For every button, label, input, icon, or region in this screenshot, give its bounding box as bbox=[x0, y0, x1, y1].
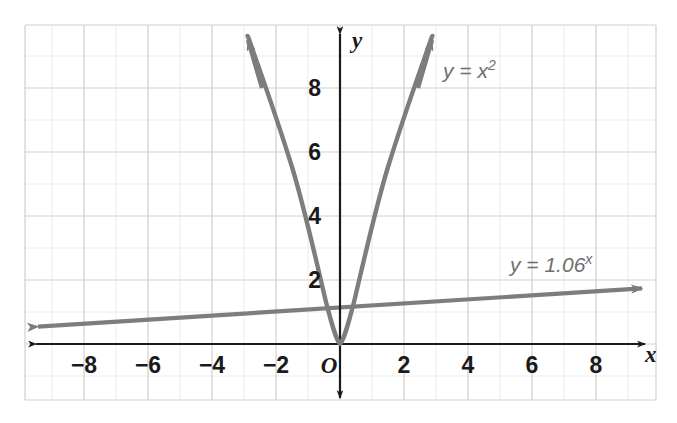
annotation-parabola-base: y = x bbox=[441, 59, 489, 82]
annotation-exponential-base: y = 1.06 bbox=[508, 253, 586, 276]
annotation-exponential: y = 1.06x bbox=[508, 251, 593, 276]
annotation-parabola-exponent: 2 bbox=[487, 57, 496, 73]
x-tick-label-neg4: −4 bbox=[199, 352, 225, 378]
y-axis-label: y bbox=[349, 28, 363, 53]
figure-background bbox=[0, 0, 677, 423]
y-tick-label-6: 6 bbox=[308, 139, 321, 165]
x-tick-label-neg8: −8 bbox=[71, 352, 97, 378]
x-axis-label: x bbox=[644, 342, 657, 367]
x-tick-label-8: 8 bbox=[590, 352, 603, 378]
graph-figure: 8 6 4 2 −8 −6 −4 −2 2 4 6 8 O y x y = x2… bbox=[0, 0, 677, 423]
y-tick-label-2: 2 bbox=[308, 267, 321, 293]
annotation-exponential-exponent: x bbox=[584, 251, 593, 267]
x-tick-label-2: 2 bbox=[398, 352, 411, 378]
x-tick-label-neg2: −2 bbox=[263, 352, 289, 378]
x-tick-label-neg6: −6 bbox=[135, 352, 161, 378]
y-tick-label-4: 4 bbox=[308, 203, 321, 229]
y-tick-label-8: 8 bbox=[308, 75, 321, 101]
annotation-parabola: y = x2 bbox=[441, 57, 496, 82]
coordinate-plane: 8 6 4 2 −8 −6 −4 −2 2 4 6 8 O y x y = x2… bbox=[0, 0, 677, 423]
origin-label: O bbox=[321, 353, 338, 378]
x-tick-label-4: 4 bbox=[462, 352, 475, 378]
x-tick-label-6: 6 bbox=[526, 352, 539, 378]
